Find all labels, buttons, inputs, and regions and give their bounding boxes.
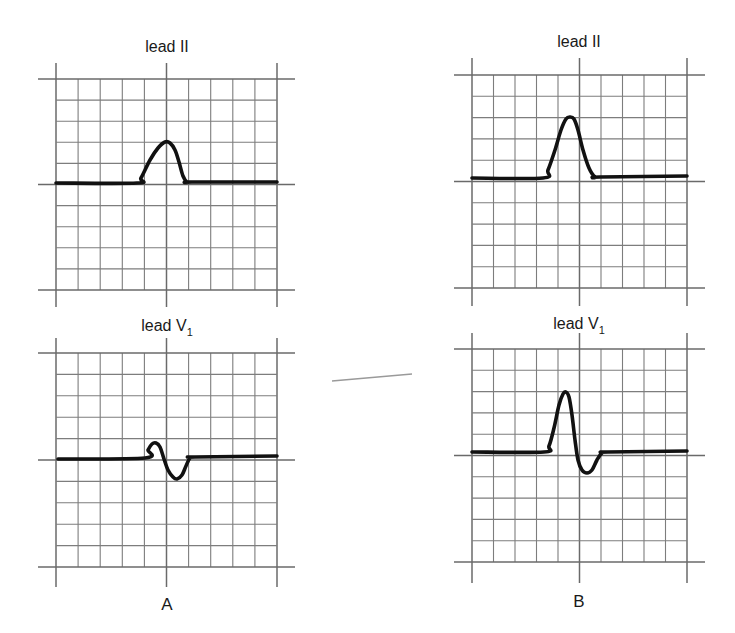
panel-label: B (573, 592, 584, 611)
lead-title: lead V1 (141, 317, 193, 338)
panel-b-lead-ii: lead II (454, 33, 705, 306)
panel-b: lead II lead V1 B (454, 33, 705, 611)
ecg-figure: lead II lead V1 A lead II lead V1 B (0, 0, 735, 633)
ecg-grid (454, 58, 705, 306)
stray-line (332, 374, 412, 381)
lead-title: lead V1 (553, 315, 605, 336)
panel-a-lead-ii: lead II (38, 38, 295, 307)
ecg-grid (454, 333, 705, 583)
lead-title: lead II (145, 38, 189, 55)
lead-title: lead II (557, 33, 601, 50)
panel-b-lead-v1: lead V1 (454, 315, 705, 583)
stray-pen-mark (332, 374, 412, 381)
panel-a: lead II lead V1 A (38, 38, 295, 614)
panel-label: A (161, 595, 173, 614)
ecg-grid (38, 63, 295, 307)
panel-a-lead-v1: lead V1 (38, 317, 295, 587)
ecg-trace (58, 443, 277, 479)
